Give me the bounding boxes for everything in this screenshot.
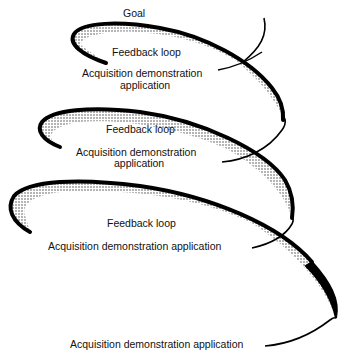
- spiral-end-tail: [265, 318, 336, 346]
- loop-1-feedback-label: Feedback loop: [112, 47, 181, 58]
- loop-1-acquisition-label: Acquisition demonstration: [82, 68, 202, 79]
- spiral-start-tail: [243, 18, 265, 62]
- spiral-diagram: Goal Feedback loop Acquisition demonstra…: [0, 0, 347, 360]
- loop-3-feedback-label: Feedback loop: [107, 218, 176, 229]
- loop-2-application-label: application: [114, 158, 164, 169]
- bottom-acquisition-label: Acquisition demonstration application: [70, 339, 243, 350]
- loop-3-acquisition-label: Acquisition demonstration application: [48, 241, 221, 252]
- loop-3-band-end: [306, 262, 337, 318]
- loop-1-application-label: application: [120, 80, 170, 91]
- goal-label: Goal: [123, 8, 145, 19]
- loop-2-feedback-label: Feedback loop: [106, 124, 175, 135]
